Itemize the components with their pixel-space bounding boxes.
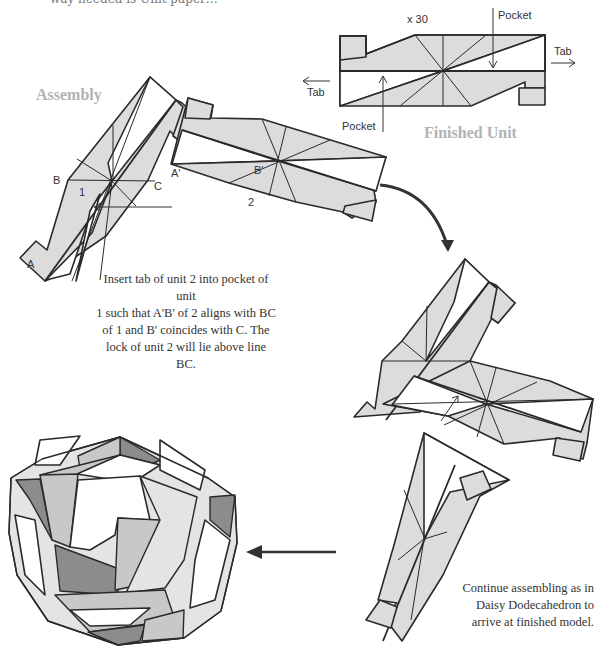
tab-label-right: Tab	[554, 45, 572, 57]
pocket-label-bottom: Pocket	[342, 120, 376, 132]
continue-line: Daisy Dodecahedron to	[430, 597, 594, 614]
instruction-line: lock of unit 2 will lie above line BC.	[96, 339, 276, 373]
finished-model	[9, 436, 237, 645]
finished-unit-heading: Finished Unit	[424, 124, 517, 142]
instruction-line: Insert tab of unit 2 into pocket of unit	[96, 271, 276, 305]
tab-arrow-right	[551, 59, 575, 67]
tab-arrow-left	[303, 77, 330, 85]
pocket-label-top: Pocket	[498, 9, 532, 21]
point-a-prime-label: A'	[171, 167, 180, 179]
unit-2-number: 2	[248, 196, 254, 208]
assembly-instructions: Insert tab of unit 2 into pocket of unit…	[96, 271, 276, 373]
unit-1-number: 1	[79, 186, 85, 198]
instruction-line: of 1 and B' coincides with C. The	[96, 322, 276, 339]
instruction-line: 1 such that A'B' of 2 aligns with BC	[96, 305, 276, 322]
left-arrow	[246, 545, 336, 559]
count-label: x 30	[407, 13, 428, 25]
assembly-heading: Assembly	[36, 86, 102, 104]
tab-label-left: Tab	[307, 86, 325, 98]
continue-line: Continue assembling as in	[430, 580, 594, 597]
unit-1-shape	[20, 77, 201, 281]
curved-arrow	[380, 185, 454, 252]
point-b-label: B	[53, 174, 60, 186]
point-c-label: C	[154, 180, 162, 192]
continue-note: Continue assembling as in Daisy Dodecahe…	[430, 580, 594, 631]
finished-unit-shape	[340, 35, 545, 106]
continue-line: arrive at finished model.	[430, 614, 594, 631]
point-b-prime-label: B'	[254, 164, 263, 176]
unit-2-shape	[171, 98, 386, 221]
point-a-label: A	[27, 258, 34, 270]
